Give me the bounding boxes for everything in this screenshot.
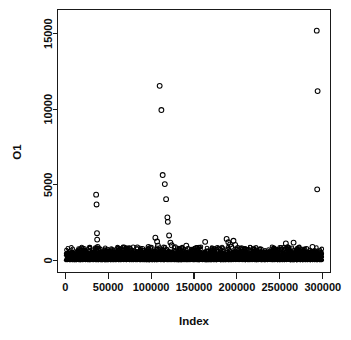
x-tick-label: 100000 [133, 281, 170, 293]
y-tick-label: 0 [43, 257, 55, 263]
x-tick-label: 150000 [176, 281, 213, 293]
x-tick-label: 300000 [304, 281, 341, 293]
x-tick-label: 250000 [261, 281, 298, 293]
x-axis-title: Index [179, 315, 210, 327]
x-tick-label: 0 [62, 281, 68, 293]
y-tick-label: 10000 [43, 94, 55, 125]
y-tick-label: 5000 [43, 173, 55, 197]
x-tick-label: 50000 [93, 281, 124, 293]
data-point [321, 259, 324, 262]
scatter-plot-figure: 20000 050001000015000 050000100000150000… [0, 0, 351, 340]
x-tick-label: 200000 [219, 281, 256, 293]
y-tick-label: 15000 [43, 18, 55, 49]
y-axis-title: O1 [11, 144, 23, 160]
plot-canvas: 20000 050001000015000 050000100000150000… [0, 0, 351, 340]
